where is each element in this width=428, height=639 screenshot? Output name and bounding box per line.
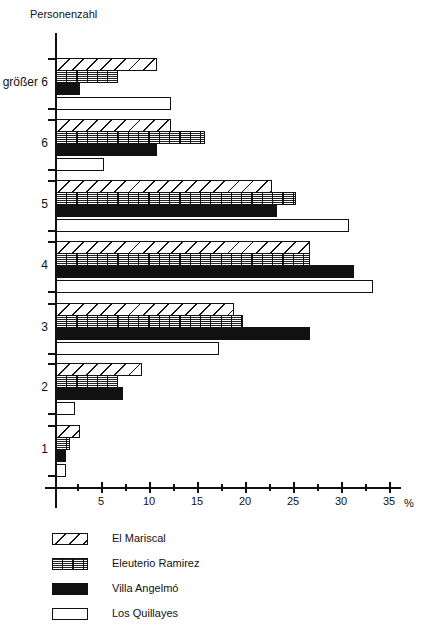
x-axis-tick <box>389 482 391 493</box>
x-axis-tick <box>269 484 271 491</box>
y-axis-tick <box>48 425 56 427</box>
bar-los-quillayes <box>56 342 219 355</box>
x-axis-tick <box>125 484 127 491</box>
x-axis-tick <box>77 484 79 491</box>
x-axis-tick-label: 25 <box>287 495 299 507</box>
y-axis-tick <box>48 108 56 110</box>
bar-los-quillayes <box>56 219 349 232</box>
category-label: 2 <box>0 380 48 394</box>
x-axis-tick-label: 30 <box>335 495 347 507</box>
y-axis-tick <box>48 230 56 232</box>
bar-los-quillayes <box>56 280 373 293</box>
x-axis-tick <box>101 482 103 493</box>
category-label: 3 <box>0 320 48 334</box>
legend-label: Eleuterio Ramirez <box>112 557 199 569</box>
y-axis-tick <box>48 180 56 182</box>
legend-label: Villa Angelmó <box>112 582 178 594</box>
bar-villa-angelm- <box>56 265 354 278</box>
x-axis-tick <box>221 484 223 491</box>
y-axis-title: Personenzahl <box>30 8 97 20</box>
bar-los-quillayes <box>56 464 66 477</box>
y-axis-tick <box>48 58 56 60</box>
x-axis-unit: % <box>404 497 414 509</box>
bar-los-quillayes <box>56 402 75 415</box>
y-axis-tick <box>48 303 56 305</box>
x-axis-tick-label: 5 <box>98 495 104 507</box>
legend-item-villa-angelmo: Villa Angelmó <box>52 583 352 603</box>
x-axis-line <box>45 487 401 489</box>
y-axis-tick <box>48 475 56 477</box>
bar-los-quillayes <box>56 97 171 110</box>
y-axis-tick <box>48 363 56 365</box>
x-axis-tick <box>245 482 247 493</box>
category-label: 1 <box>0 442 48 456</box>
bar-villa-angelm- <box>56 204 277 217</box>
category-label: 4 <box>0 258 48 272</box>
legend-item-eleuterio-ramirez: Eleuterio Ramirez <box>52 558 352 578</box>
x-axis-tick <box>197 482 199 493</box>
x-axis-tick <box>341 482 343 493</box>
y-axis-tick <box>48 353 56 355</box>
x-axis-tick-label: 15 <box>191 495 203 507</box>
y-axis-tick <box>48 119 56 121</box>
category-label: größer 6 <box>0 75 48 89</box>
legend-item-el-mariscal: El Mariscal <box>52 533 352 553</box>
y-axis-tick <box>48 169 56 171</box>
legend-label: Los Quillayes <box>112 607 178 619</box>
legend-item-los-quillayes: Los Quillayes <box>52 608 352 628</box>
x-axis-tick-label: 10 <box>143 495 155 507</box>
diagonal-hatch-swatch-icon <box>52 533 88 545</box>
y-axis-tick <box>48 413 56 415</box>
x-axis-tick <box>317 484 319 491</box>
x-axis-tick <box>365 484 367 491</box>
x-axis-tick <box>173 484 175 491</box>
bar-los-quillayes <box>56 158 104 171</box>
y-axis-tick <box>48 291 56 293</box>
bar-villa-angelm- <box>56 449 66 462</box>
x-axis-tick <box>149 482 151 493</box>
grid-hatch-swatch-icon <box>52 558 88 570</box>
category-label: 5 <box>0 197 48 211</box>
x-axis-tick-label: 20 <box>239 495 251 507</box>
category-label: 6 <box>0 136 48 150</box>
bar-villa-angelm- <box>56 143 157 156</box>
white-swatch-icon <box>52 608 88 620</box>
solid-black-swatch-icon <box>52 583 88 595</box>
bar-villa-angelm- <box>56 327 310 340</box>
bar-villa-angelm- <box>56 82 80 95</box>
x-axis-tick-label: 35 <box>383 495 395 507</box>
x-axis-tick <box>293 482 295 493</box>
y-axis-tick <box>48 241 56 243</box>
bar-villa-angelm- <box>56 387 123 400</box>
legend-label: El Mariscal <box>112 532 166 544</box>
